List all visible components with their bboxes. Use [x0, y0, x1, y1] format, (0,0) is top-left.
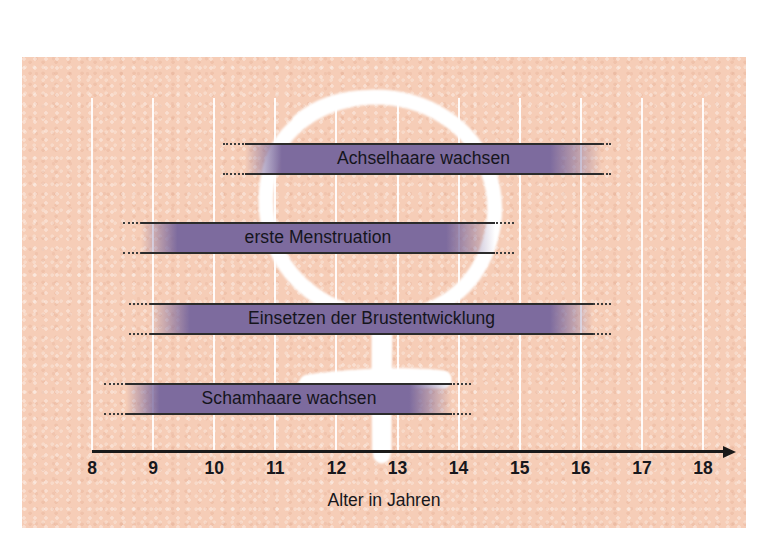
axis-tick-label-18: 18	[683, 458, 723, 479]
axis-line	[92, 450, 723, 453]
axis-tick-label-8: 8	[72, 458, 112, 479]
gridline-year-8	[91, 98, 93, 450]
bar-row: erste Menstruation	[123, 222, 514, 254]
bar-label: Einsetzen der Brustentwicklung	[248, 303, 495, 335]
figure-root: Achselhaare wachsenerste MenstruationEin…	[0, 0, 767, 546]
axis-tick-label-12: 12	[316, 458, 356, 479]
axis-tick-label-14: 14	[439, 458, 479, 479]
bar-label: Schamhaare wachsen	[202, 383, 377, 415]
bar-label: erste Menstruation	[245, 222, 392, 254]
axis-tick-label-13: 13	[378, 458, 418, 479]
gridline-year-18	[702, 98, 704, 450]
axis-tick-label-17: 17	[622, 458, 662, 479]
axis-tick-label-15: 15	[500, 458, 540, 479]
bar-row: Einsetzen der Brustentwicklung	[129, 303, 612, 335]
axis-tick-label-10: 10	[194, 458, 234, 479]
axis-tick-label-11: 11	[255, 458, 295, 479]
axis-tick-label-9: 9	[133, 458, 173, 479]
chart-panel: Achselhaare wachsenerste MenstruationEin…	[22, 57, 746, 528]
gridline-year-17	[641, 98, 643, 450]
bar-row: Achselhaare wachsen	[223, 143, 611, 175]
bar-label: Achselhaare wachsen	[337, 143, 510, 175]
bar-row: Schamhaare wachsen	[104, 383, 471, 415]
axis-arrow-icon	[723, 446, 736, 458]
axis-caption: Alter in Jahren	[22, 490, 746, 511]
axis-tick-label-16: 16	[561, 458, 601, 479]
